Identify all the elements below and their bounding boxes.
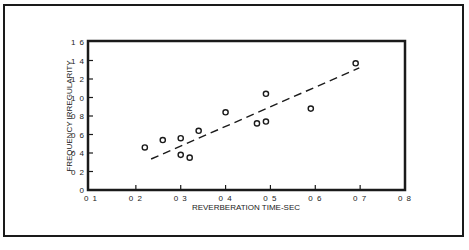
- data-point: [160, 137, 165, 142]
- data-point: [308, 106, 313, 111]
- data-point: [353, 61, 358, 66]
- y-tick-label: 0: [80, 186, 85, 195]
- x-tick-label: 0 8: [398, 194, 412, 203]
- x-tick-label: 0 6: [308, 194, 322, 203]
- x-axis-label: REVERBERATION TIME-SEC: [192, 203, 300, 212]
- x-tick-label: 0 1: [84, 194, 98, 203]
- data-point: [254, 121, 259, 126]
- plot-area: 0 10 20 30 40 50 60 70 800 20 40 60 81 0…: [71, 38, 412, 203]
- x-tick-label: 0 5: [263, 194, 277, 203]
- x-tick-label: 0 4: [219, 194, 233, 203]
- data-point: [178, 152, 183, 157]
- y-tick-label: 1 6: [71, 38, 85, 47]
- y-axis-label: FREQUENCY IRREGULARITY: [65, 60, 74, 172]
- x-tick-label: 0 3: [174, 194, 188, 203]
- trend-line: [151, 68, 359, 159]
- data-point: [223, 110, 228, 115]
- plot-border: [88, 41, 405, 190]
- data-point: [142, 145, 147, 150]
- data-point: [263, 91, 268, 96]
- scatter-chart: 0 10 20 30 40 50 60 70 800 20 40 60 81 0…: [0, 0, 469, 250]
- x-tick-label: 0 2: [129, 194, 143, 203]
- data-point: [178, 136, 183, 141]
- data-point: [196, 128, 201, 133]
- data-point: [263, 119, 268, 124]
- x-tick-label: 0 7: [353, 194, 367, 203]
- data-point: [187, 155, 192, 160]
